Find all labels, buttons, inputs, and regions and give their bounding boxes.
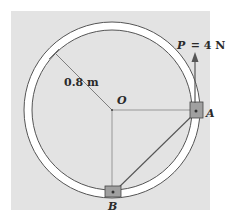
diagram-canvas: 0.8 m O A B P = 4 N [0, 0, 226, 220]
center-point-o [111, 109, 113, 111]
point-label-b: B [107, 200, 117, 213]
point-label-a: A [205, 107, 215, 120]
radius-label: 0.8 m [64, 76, 99, 89]
collar-b [105, 186, 121, 197]
collar-a [190, 102, 203, 118]
force-label: P = 4 N [176, 39, 225, 52]
center-label-o: O [117, 94, 127, 107]
force-value: = 4 N [191, 39, 226, 52]
force-symbol: P [176, 39, 186, 52]
